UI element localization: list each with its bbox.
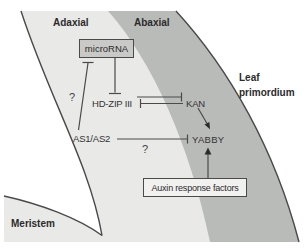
- question-mark-as1as2-microrna: ?: [69, 91, 75, 103]
- leaf-primordium-diagram: Adaxial Abaxial Leaf primordium Meristem…: [0, 0, 307, 249]
- abaxial-label: Abaxial: [134, 17, 170, 28]
- leaf-primordium-label-line1: Leaf: [239, 71, 295, 86]
- microrna-node-box: microRNA: [79, 39, 134, 58]
- leaf-primordium-label: Leaf primordium: [239, 71, 295, 100]
- yabby-label: YABBY: [192, 134, 224, 145]
- leaf-primordium-label-line2: primordium: [239, 86, 295, 101]
- meristem-label: Meristem: [11, 218, 55, 229]
- microrna-label: microRNA: [85, 43, 128, 54]
- diagram-canvas: [0, 0, 307, 249]
- hdzip3-label: HD-ZIP III: [92, 98, 132, 109]
- adaxial-label: Adaxial: [53, 17, 89, 28]
- question-mark-as1as2-yabby: ?: [142, 143, 148, 155]
- auxin-response-factors-label: Auxin response factors: [151, 183, 238, 193]
- as1as2-label: AS1/AS2: [73, 133, 110, 144]
- kan-label: KAN: [186, 98, 205, 109]
- auxin-response-factors-node-box: Auxin response factors: [143, 178, 247, 197]
